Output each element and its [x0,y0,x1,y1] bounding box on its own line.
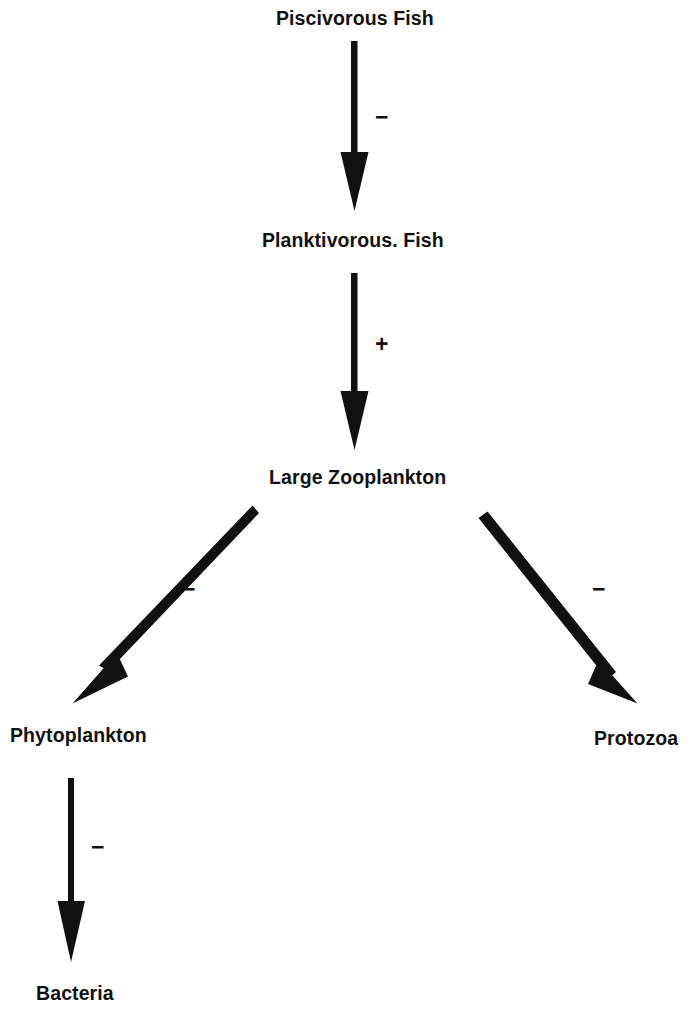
arrow-zooplankton-to-phytoplankton [73,506,260,704]
arrow-piscivorous-to-planktivorous [341,41,369,211]
edge-sign-piscivorous-to-planktivorous: − [375,106,388,129]
node-label-phytoplankton: Phytoplankton [10,726,147,746]
edge-sign-zooplankton-to-protozoa: − [592,578,605,601]
node-label-protozoa: Protozoa [594,729,678,749]
edge-sign-phytoplankton-to-bacteria: − [91,836,104,859]
food-web-diagram: Piscivorous Fish Planktivorous. Fish Lar… [0,0,697,1016]
node-label-piscivorous-fish: Piscivorous Fish [276,9,434,29]
node-label-bacteria: Bacteria [36,984,114,1004]
arrow-zooplankton-to-protozoa [479,512,638,704]
node-label-large-zooplankton: Large Zooplankton [269,468,446,488]
arrow-phytoplankton-to-bacteria [58,778,86,962]
edge-sign-planktivorous-to-zooplankton: + [375,333,388,356]
edge-sign-zooplankton-to-phytoplankton: − [182,578,195,601]
arrow-layer [0,0,697,1016]
arrow-planktivorous-to-zooplankton [341,273,369,450]
node-label-planktivorous-fish: Planktivorous. Fish [262,231,444,251]
